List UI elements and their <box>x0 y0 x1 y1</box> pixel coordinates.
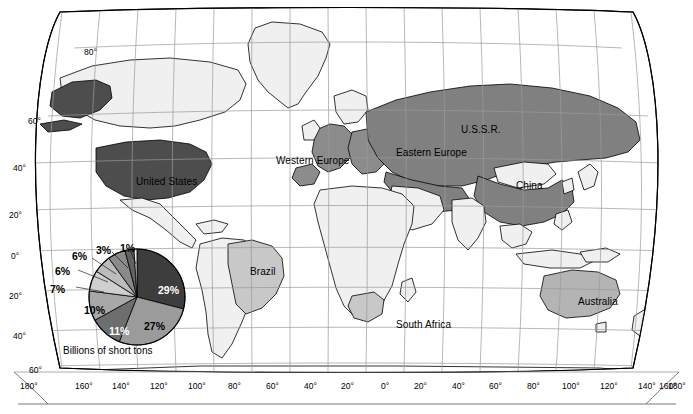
longitude-tick-label: 60° <box>489 381 502 391</box>
longitude-tick-label: 20° <box>341 381 354 391</box>
longitude-tick-label: 160° <box>75 381 93 391</box>
map-label-china: China <box>516 180 543 191</box>
latitude-tick-label: 40° <box>13 163 26 173</box>
pie-percent-label: 3% <box>96 244 111 256</box>
longitude-tick-label: 40° <box>304 381 317 391</box>
longitude-tick-label: 180° <box>668 381 686 391</box>
latitude-tick-label: 60° <box>29 365 42 375</box>
pie-percent-label: 29% <box>158 284 179 296</box>
latitude-tick-label: 20° <box>9 291 22 301</box>
longitude-tick-label: 60° <box>266 381 279 391</box>
longitude-tick-label: 80° <box>527 381 540 391</box>
pie-percent-label: 7% <box>50 283 65 295</box>
figure-root: United StatesBrazilWestern EuropeEastern… <box>0 0 693 414</box>
pie-percent-label: 11% <box>109 325 129 337</box>
latitude-tick-label: 20° <box>9 210 22 220</box>
map-label-united-states: United States <box>136 176 197 187</box>
map-label-western-europe: Western Europe <box>276 155 349 166</box>
longitude-tick-label: 20° <box>414 381 427 391</box>
longitude-tick-label: 100° <box>188 381 206 391</box>
map-label-brazil: Brazil <box>250 266 276 277</box>
longitude-tick-label: 80° <box>228 381 241 391</box>
longitude-tick-label: 120° <box>600 381 618 391</box>
map-label-south-africa: South Africa <box>396 319 451 330</box>
longitude-tick-label: 40° <box>452 381 465 391</box>
longitude-tick-label: 100° <box>562 381 580 391</box>
longitude-tick-label: 0° <box>381 381 389 391</box>
pie-percent-label: 27% <box>144 320 165 332</box>
longitude-tick-label: 120° <box>150 381 168 391</box>
latitude-tick-label: 80° <box>84 47 97 57</box>
map-label-eastern-europe: Eastern Europe <box>396 147 467 158</box>
latitude-tick-label: 40° <box>13 331 26 341</box>
longitude-tick-label: 140° <box>638 381 656 391</box>
pie-percent-label: 1% <box>120 242 135 254</box>
pie-chart-caption: Billions of short tons <box>63 345 153 356</box>
pie-percent-label: 6% <box>55 265 70 277</box>
pie-percent-label: 10% <box>84 304 105 316</box>
latitude-tick-label: 0° <box>11 251 19 261</box>
pie-percent-label: 6% <box>72 250 87 262</box>
map-label-australia: Australia <box>578 296 618 307</box>
map-label-u-s-s-r: U.S.S.R. <box>461 124 501 135</box>
longitude-tick-label: 140° <box>112 381 130 391</box>
latitude-tick-label: 60° <box>28 116 41 126</box>
longitude-tick-label: 180° <box>20 381 38 391</box>
